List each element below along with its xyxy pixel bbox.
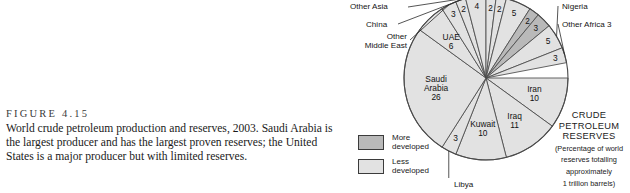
legend-label-less-developed: Less developed (392, 157, 429, 175)
figure-caption-block: FIGURE 4.15 World crude petroleum produc… (6, 108, 336, 164)
chart-subtitle-line-4: 1 trillion barrels) (548, 180, 630, 189)
pie-value-other-middle-east: 3 (451, 9, 456, 19)
legend-swatch-more-developed (358, 135, 384, 150)
pie-value-unlabeled-c: 5 (512, 9, 517, 18)
legend-item-less-developed: Less developed (358, 157, 429, 175)
pie-value-unlabeled-a: 2 (488, 4, 493, 13)
pie-value-unlabeled-d: 2 (525, 17, 530, 26)
pie-value-nigeria: 5 (546, 36, 551, 46)
pie-value-other-africa: 3 (553, 53, 558, 63)
chart-title-line-2: PETROLEUM (548, 121, 630, 132)
chart-subtitle-line-3: approximately (548, 168, 630, 177)
label-libya: Libya (454, 180, 473, 189)
figure-number: FIGURE 4.15 (6, 108, 336, 119)
label-other-middle-east: Other Middle East (349, 32, 407, 50)
crude-petroleum-reserves-chart: Iran10Iraq11Kuwait103SaudiArabia26UAE632… (336, 0, 630, 193)
leader-nigeria (557, 6, 558, 36)
pie-value-china: 2 (461, 4, 466, 14)
pie-value-other-asia: 4 (475, 1, 480, 11)
legend-label-more-developed: More developed (392, 133, 429, 151)
legend-swatch-less-developed (358, 159, 384, 174)
chart-legend: More developed Less developed (358, 133, 429, 181)
pie-value-unlabeled-b: 2 (497, 5, 502, 14)
chart-subtitle-line-1: (Percentage of world (548, 145, 630, 154)
legend-item-more-developed: More developed (358, 133, 429, 151)
chart-title-line-1: CRUDE (548, 110, 630, 121)
chart-subtitle-line-2: reserves totalling (548, 156, 630, 165)
figure-caption-text: World crude petroleum production and res… (6, 122, 336, 164)
chart-title-line-3: RESERVES (548, 131, 630, 142)
label-other-asia: Other Asia (350, 2, 388, 11)
label-other-africa: Other Africa 3 (562, 20, 611, 29)
label-nigeria: Nigeria (562, 2, 588, 11)
chart-title-block: CRUDE PETROLEUM RESERVES (Percentage of … (548, 110, 630, 188)
pie-value-libya: 3 (453, 133, 458, 143)
label-china: China (366, 20, 387, 29)
pie-value-unlabeled-e: 3 (534, 24, 539, 33)
